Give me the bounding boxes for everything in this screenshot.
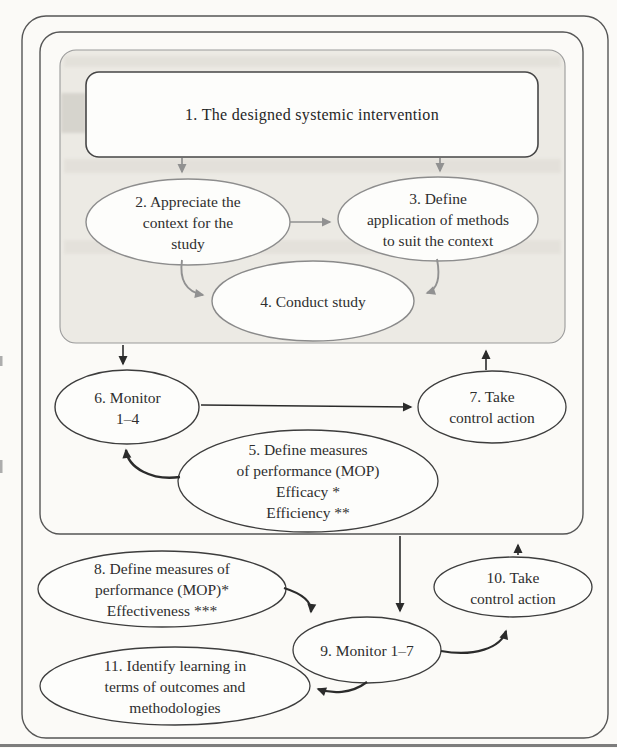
step-9-ellipse <box>293 617 441 683</box>
margin-mark <box>0 356 3 366</box>
step-6-ellipse <box>55 370 199 444</box>
step-4-ellipse <box>212 261 414 341</box>
scanned-figure-page: 1. The designed systemic intervention 2.… <box>0 0 617 748</box>
flowchart-canvas <box>0 0 617 748</box>
arrow-step8-to-step9 <box>284 588 311 612</box>
arrow-step9-to-step11 <box>318 682 367 692</box>
page-edge-line <box>0 744 617 747</box>
step-10-ellipse <box>434 557 592 617</box>
scan-smudge <box>64 159 561 173</box>
step-1-box <box>86 72 538 157</box>
step-11-ellipse <box>40 647 310 725</box>
step-7-ellipse <box>418 371 566 443</box>
arrow-step5-to-step6 <box>126 450 180 478</box>
scan-smudge <box>61 93 86 133</box>
step-2-ellipse <box>86 179 290 265</box>
step-5-ellipse <box>178 430 438 532</box>
step-8-ellipse <box>38 551 286 627</box>
arrow-step6-to-step7 <box>201 405 411 407</box>
margin-mark <box>0 460 3 473</box>
arrow-step9-to-step10 <box>441 631 506 653</box>
scan-smudge <box>64 56 561 67</box>
step-3-ellipse <box>338 177 538 261</box>
